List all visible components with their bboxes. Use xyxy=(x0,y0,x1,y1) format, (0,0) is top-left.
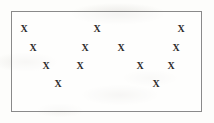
scatter-marker: X xyxy=(93,24,100,34)
scatter-marker: X xyxy=(167,61,174,71)
scatter-marker: X xyxy=(29,43,36,53)
scatter-marker: X xyxy=(42,61,49,71)
scatter-marker: X xyxy=(152,79,159,89)
scatter-marker: X xyxy=(54,79,61,89)
scatter-marker: X xyxy=(136,61,143,71)
scatter-marker: X xyxy=(117,43,124,53)
scatter-marker: X xyxy=(76,61,83,71)
scatter-marker: X xyxy=(172,43,179,53)
scatter-marker: X xyxy=(177,24,184,34)
scatter-marker: X xyxy=(20,24,27,34)
figure-canvas: XXXXXXXXXXXXX xyxy=(0,0,214,123)
scatter-marker: X xyxy=(81,43,88,53)
plot-area-border: XXXXXXXXXXXXX xyxy=(11,11,202,112)
